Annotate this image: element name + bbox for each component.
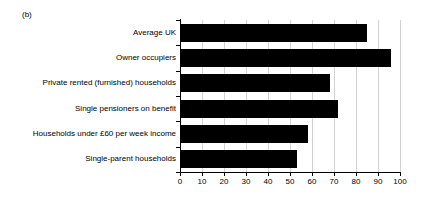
figure-panel-b: (b) 0102030405060708090100Average UKOwne… <box>0 0 429 203</box>
gridline-90 <box>378 20 379 172</box>
gridline-80 <box>356 20 357 172</box>
category-label: Single-parent households <box>85 154 176 163</box>
category-label: Single pensioners on benefit <box>75 104 176 113</box>
category-label: Households under £60 per week income <box>33 129 176 138</box>
x-tick-10 <box>202 173 203 176</box>
x-tick-20 <box>224 173 225 176</box>
x-tick-label: 70 <box>330 177 339 186</box>
bar <box>180 74 330 92</box>
x-tick-70 <box>334 173 335 176</box>
category-label: Average UK <box>133 28 176 37</box>
x-tick-50 <box>290 173 291 176</box>
y-tick <box>176 96 180 97</box>
y-tick <box>176 71 180 72</box>
gridline-40 <box>268 20 269 172</box>
y-tick <box>176 172 180 173</box>
y-tick <box>176 45 180 46</box>
x-tick-label: 50 <box>286 177 295 186</box>
y-axis-line <box>180 19 181 173</box>
y-tick <box>176 121 180 122</box>
bar <box>180 125 308 143</box>
x-tick-label: 60 <box>308 177 317 186</box>
x-tick-0 <box>180 173 181 176</box>
bar <box>180 49 391 67</box>
x-tick-60 <box>312 173 313 176</box>
bar <box>180 24 367 42</box>
x-tick-label: 90 <box>374 177 383 186</box>
gridline-30 <box>246 20 247 172</box>
x-tick-label: 30 <box>242 177 251 186</box>
gridline-50 <box>290 20 291 172</box>
gridline-10 <box>202 20 203 172</box>
x-tick-label: 80 <box>352 177 361 186</box>
y-tick <box>176 147 180 148</box>
x-tick-30 <box>246 173 247 176</box>
chart-plot: 0102030405060708090100Average UKOwner oc… <box>0 0 429 203</box>
x-tick-40 <box>268 173 269 176</box>
plot-area <box>180 20 400 172</box>
y-tick <box>176 20 180 21</box>
gridline-20 <box>224 20 225 172</box>
x-tick-label: 100 <box>393 177 406 186</box>
bar <box>180 100 338 118</box>
gridline-100 <box>400 20 401 172</box>
x-tick-label: 40 <box>264 177 273 186</box>
x-tick-90 <box>378 173 379 176</box>
x-tick-label: 0 <box>178 177 182 186</box>
gridline-70 <box>334 20 335 172</box>
category-label: Private rented (furnished) households <box>43 78 176 87</box>
x-tick-80 <box>356 173 357 176</box>
x-tick-label: 10 <box>198 177 207 186</box>
bar <box>180 150 297 168</box>
x-tick-100 <box>400 173 401 176</box>
gridline-60 <box>312 20 313 172</box>
category-label: Owner occupiers <box>116 53 176 62</box>
x-tick-label: 20 <box>220 177 229 186</box>
